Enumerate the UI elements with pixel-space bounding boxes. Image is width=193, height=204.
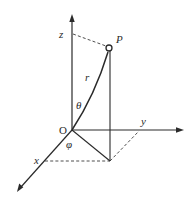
x-axis: [21, 130, 72, 187]
z-axis-arrowhead-icon: [69, 14, 74, 22]
radius-line: [72, 52, 108, 130]
xy-projection-line: [72, 130, 110, 161]
x-axis-label: x: [33, 154, 39, 166]
y-axis-arrowhead-icon: [176, 127, 184, 132]
z-axis-label: z: [58, 28, 64, 40]
point-p-label: P: [115, 33, 123, 45]
radius-label: r: [85, 71, 90, 83]
y-axis-label: y: [140, 115, 146, 127]
theta-label: θ: [76, 99, 82, 111]
phi-label: φ: [66, 138, 72, 150]
point-p-marker: [106, 45, 112, 51]
origin-label: O: [59, 124, 67, 136]
spherical-coordinates-diagram: z y x O P r θ φ: [0, 0, 193, 204]
z-projection-dashed-line: [73, 34, 106, 46]
y-projection-dashed-line: [110, 131, 139, 161]
